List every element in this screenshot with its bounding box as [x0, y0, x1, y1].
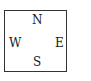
compass-label-west: W [9, 37, 21, 49]
compass-label-north: N [32, 14, 43, 26]
compass-label-east: E [55, 37, 64, 49]
compass-label-south: S [33, 56, 41, 68]
